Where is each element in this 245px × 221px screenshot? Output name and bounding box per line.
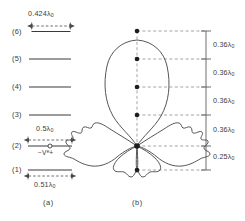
dimension-label-051: 0.51λ0 (34, 181, 56, 189)
spacing-value-2: 0.36 (213, 68, 228, 77)
dimension-value-0424: 0.424 (28, 9, 47, 18)
figure-canvas: (6) (5) (4) (3) (2) (1) 0.424λ0 0.5λ0 0.… (0, 0, 245, 221)
spacing-label-1: 0.36λ0 (213, 41, 235, 49)
pattern-leader-lines (137, 31, 206, 170)
element-marker-5 (135, 57, 140, 62)
spacing-sub-2: 0 (232, 71, 235, 77)
element-label-5: (5) (12, 55, 22, 62)
element-label-3: (3) (12, 111, 22, 118)
spacing-label-5: 0.25λ0 (213, 153, 235, 161)
dimension-line-0424 (32, 23, 71, 30)
spacing-label-2: 0.36λ0 (213, 69, 235, 77)
feed-point-circle (48, 144, 52, 148)
dimension-label-05: 0.5λ0 (36, 125, 53, 133)
spacing-value-1: 0.36 (213, 40, 228, 49)
lambda-subscript-0424: 0 (51, 12, 54, 18)
spacing-label-4: 0.36λ0 (213, 126, 235, 134)
spacing-value-4: 0.36 (213, 125, 228, 134)
element-label-2: (2) (12, 142, 22, 149)
element-label-1: (1) (12, 166, 22, 173)
panel-a-caption: (a) (43, 199, 54, 206)
element-marker-6 (135, 29, 140, 34)
spacing-value-3: 0.36 (213, 96, 228, 105)
dimension-line-051 (28, 173, 72, 180)
lambda-subscript-05: 0 (50, 127, 53, 133)
dimension-value-051: 0.51 (34, 180, 49, 189)
spacing-sub-4: 0 (232, 128, 235, 134)
spacing-sub-5: 0 (232, 155, 235, 161)
element-marker-1 (135, 168, 140, 173)
dimension-value-05: 0.5 (36, 124, 47, 133)
spacing-dimension-column (201, 31, 211, 170)
lambda-subscript-051: 0 (53, 183, 56, 189)
element-label-4: (4) (12, 83, 22, 90)
side-lobe-right-outer-path (137, 123, 210, 166)
dimension-label-0424: 0.424λ0 (28, 10, 54, 18)
panel-b-caption: (b) (132, 199, 143, 206)
dimension-line-05 (28, 137, 72, 144)
spacing-sub-1: 0 (232, 43, 235, 49)
feed-plus-sign: + (49, 149, 53, 156)
element-marker-3 (135, 113, 140, 118)
side-lobe-left-outer-path (64, 123, 137, 166)
element-marker-2 (134, 143, 140, 149)
element-marker-4 (135, 85, 140, 90)
element-label-6: (6) (12, 28, 22, 35)
spacing-label-3: 0.36λ0 (213, 97, 235, 105)
feed-source-label: −Ve+ (38, 150, 53, 157)
spacing-value-5: 0.25 (213, 152, 228, 161)
spacing-sub-3: 0 (232, 99, 235, 105)
